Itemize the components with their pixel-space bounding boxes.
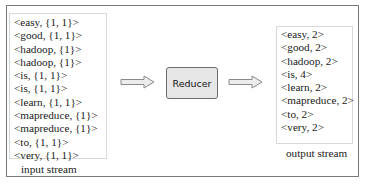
- output-item: <learn, 2>: [281, 81, 352, 94]
- input-item: <very, {1, 1}>: [14, 149, 106, 162]
- input-item: <mapreduce, {1}>: [14, 122, 106, 135]
- output-item: <good, 2>: [281, 41, 352, 54]
- output-item: <hadoop, 2>: [281, 55, 352, 68]
- input-item: <learn, {1, 1}>: [14, 96, 106, 109]
- input-stream-box: <easy, {1, 1}> <good, {1, 1}> <hadoop, {…: [9, 13, 107, 159]
- output-stream-box: <easy, 2> <good, 2> <hadoop, 2> <is, 4> …: [276, 26, 353, 144]
- arrow-right-icon: [228, 75, 264, 89]
- input-item: <is, {1, 1}>: [14, 69, 106, 82]
- output-item: <easy, 2>: [281, 28, 352, 41]
- input-item: <hadoop, {1}>: [14, 43, 106, 56]
- arrow-right-icon: [120, 75, 156, 89]
- input-item: <to, {1, 1}>: [14, 136, 106, 149]
- output-stream-caption: output stream: [286, 147, 347, 159]
- output-item: <very, 2>: [281, 121, 352, 134]
- reducer-label: Reducer: [172, 78, 211, 89]
- output-item: <is, 4>: [281, 68, 352, 81]
- input-item: <good, {1, 1}>: [14, 29, 106, 42]
- input-item: <hadoop, {1}>: [14, 56, 106, 69]
- input-item: <is, {1, 1}>: [14, 82, 106, 95]
- input-stream-caption: input stream: [21, 163, 77, 175]
- output-item: <to, 2>: [281, 108, 352, 121]
- output-item: <mapreduce, 2>: [281, 94, 352, 107]
- input-item: <mapreduce, {1}>: [14, 109, 106, 122]
- reducer-box: Reducer: [166, 67, 218, 99]
- input-item: <easy, {1, 1}>: [14, 16, 106, 29]
